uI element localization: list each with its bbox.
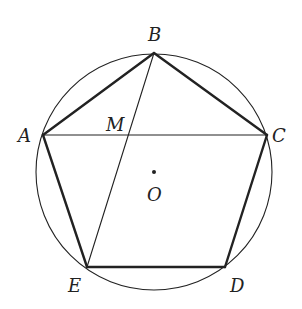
center-point-o: [152, 170, 156, 174]
label-d: D: [229, 275, 245, 296]
label-o: O: [147, 184, 162, 205]
side-ab: [43, 53, 154, 135]
pentagon-diagram: A B C D E M O: [0, 0, 302, 309]
label-b: B: [147, 24, 161, 45]
label-e: E: [67, 275, 81, 296]
side-ea: [43, 135, 87, 267]
label-c: C: [272, 125, 286, 146]
chord-be: [87, 53, 154, 267]
label-m: M: [105, 114, 125, 135]
side-bc: [154, 53, 267, 135]
label-a: A: [16, 125, 31, 146]
side-cd: [225, 135, 267, 267]
